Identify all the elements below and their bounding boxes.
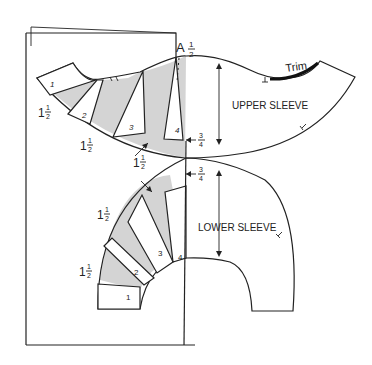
svg-text:4: 4 (199, 175, 203, 182)
one-half-label-lower-2: 1 1 2 (79, 263, 92, 279)
arrow-head-up (216, 63, 222, 69)
lower-section-1 (98, 284, 140, 309)
lower-section-2-number: 2 (134, 268, 139, 277)
arrow-head-down (216, 251, 222, 257)
svg-text:3: 3 (199, 166, 203, 173)
notch-mark (262, 77, 268, 82)
upper-section-2-number: 2 (81, 111, 87, 120)
upper-sleeve-label: UPPER SLEEVE (232, 100, 308, 111)
svg-text:1: 1 (88, 137, 92, 144)
svg-text:2: 2 (46, 113, 50, 120)
arrow-head-up (216, 170, 222, 176)
notch-mark (276, 232, 282, 238)
lower-sleeve-label: LOWER SLEEVE (198, 222, 277, 233)
one-half-label-upper-2: 1 1 2 (80, 137, 93, 153)
svg-text:1: 1 (133, 156, 140, 170)
lower-section-4-number: 4 (178, 253, 183, 262)
svg-text:1: 1 (97, 208, 104, 222)
svg-text:3: 3 (199, 132, 203, 139)
sleeve-pattern-diagram: A 1 2 Trim UPPER SLEEVE LOWER SLEEVE 3 4… (0, 0, 372, 365)
point-a-label: A (176, 40, 185, 55)
svg-text:4: 4 (199, 141, 203, 148)
svg-text:1: 1 (80, 139, 87, 153)
half-inch-den: 2 (189, 50, 194, 59)
arrow-head-down (216, 139, 222, 145)
svg-text:2: 2 (105, 215, 109, 222)
svg-text:1: 1 (141, 154, 145, 161)
notch-mark (300, 124, 306, 130)
upper-section-4-number: 4 (175, 126, 180, 135)
three-quarter-label-bottom: 3 4 (198, 166, 205, 182)
one-half-label-upper-1: 1 1 2 (38, 104, 51, 120)
paper-fold-edge (31, 27, 176, 46)
svg-text:1: 1 (79, 265, 86, 279)
svg-text:2: 2 (88, 146, 92, 153)
lower-section-1-number: 1 (126, 293, 131, 302)
svg-text:1: 1 (38, 106, 45, 120)
svg-text:1: 1 (105, 206, 109, 213)
svg-text:1: 1 (87, 263, 91, 270)
one-half-label-lower-1: 1 1 2 (97, 206, 110, 222)
lower-section-3-number: 3 (158, 249, 163, 258)
svg-text:2: 2 (141, 163, 145, 170)
half-inch-num: 1 (189, 40, 194, 49)
svg-text:2: 2 (87, 272, 91, 279)
lower-sleeve-piece (98, 141, 294, 345)
svg-text:1: 1 (46, 104, 50, 111)
upper-section-3-number: 3 (129, 123, 134, 132)
three-quarter-arrows (186, 137, 196, 177)
upper-section-1-number: 1 (50, 80, 54, 89)
one-half-label-center: 1 1 2 (133, 154, 146, 170)
three-quarter-label-top: 3 4 (198, 132, 205, 148)
